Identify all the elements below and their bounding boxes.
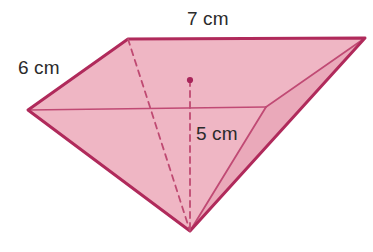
base-center-point: [187, 77, 193, 83]
pyramid-figure: 7 cm 6 cm 5 cm: [0, 0, 373, 252]
base-length-label: 7 cm: [187, 9, 229, 28]
pyramid-diagram: [0, 0, 373, 252]
base-width-label: 6 cm: [18, 58, 60, 77]
height-label: 5 cm: [196, 124, 238, 143]
